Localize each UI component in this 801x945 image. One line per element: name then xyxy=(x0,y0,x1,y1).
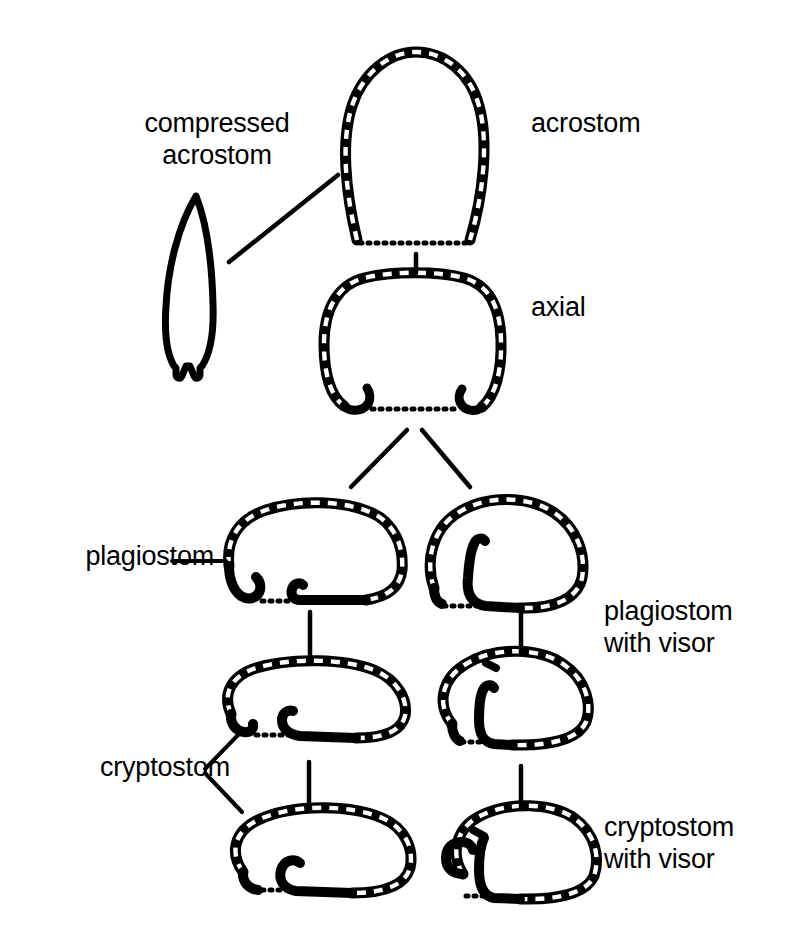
label-plagiostom-with-visor: plagiostom with visor xyxy=(604,596,799,660)
shape-axial xyxy=(324,273,501,411)
shape-cryptostom-lower-left xyxy=(235,808,411,893)
label-cryptostom-with-visor: cryptostom with visor xyxy=(604,812,799,876)
label-compressed-acrostom: compressed acrostom xyxy=(104,108,330,172)
label-acrostom: acrostom xyxy=(531,108,761,140)
label-cryptostom: cryptostom xyxy=(14,752,230,784)
branch-axial-left xyxy=(351,430,407,487)
shape-acrostom xyxy=(346,52,484,243)
label-plagiostom: plagiostom xyxy=(14,541,214,573)
shape-cryptostom-visor-lower-right xyxy=(446,806,597,899)
shape-cryptostom xyxy=(228,661,406,738)
shape-plagiostom xyxy=(229,503,403,601)
shape-plagiostom-with-visor xyxy=(430,500,583,609)
shape-compressed-acrostom xyxy=(165,196,213,378)
branch-axial-right xyxy=(422,430,470,487)
leader-compressed-acrostom xyxy=(229,175,338,262)
label-axial: axial xyxy=(531,292,731,324)
figure-root: compressed acrostom acrostom axial plagi… xyxy=(0,0,801,945)
shape-cryptostom-with-visor xyxy=(443,651,588,745)
